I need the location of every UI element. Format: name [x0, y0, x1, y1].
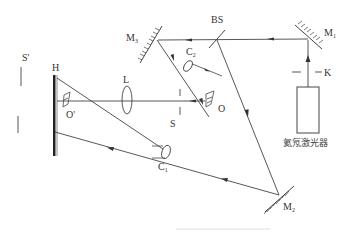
h-label: H — [52, 62, 59, 73]
object-beam-to-h — [57, 100, 205, 103]
beam-m2-to-h — [55, 132, 279, 195]
beam-expander-c2 — [182, 59, 195, 73]
o-prime-label: O' — [66, 109, 75, 120]
s-prime-label: S' — [22, 52, 30, 63]
m3-label: M3 — [126, 32, 138, 44]
m1-label: M1 — [324, 27, 336, 39]
object-o — [206, 91, 214, 107]
holography-setup-diagram: 氦氖激光器 K M1 BS — [0, 0, 349, 234]
hologram-plate-h — [53, 75, 57, 156]
o-label: O — [218, 103, 225, 114]
c1-label: C1 — [158, 161, 168, 173]
laser-label: 氦氖激光器 — [283, 137, 328, 148]
c2-label: C2 — [186, 46, 196, 58]
l-label: L — [123, 74, 129, 85]
beam-bs-to-m2 — [217, 40, 279, 195]
bs-label: BS — [211, 14, 223, 25]
laser-source — [297, 87, 319, 133]
virtual-image-o-prime — [63, 92, 70, 107]
lens-l — [122, 86, 132, 114]
aperture-image-s-prime — [18, 67, 21, 133]
mirror-m1 — [295, 21, 323, 49]
beam-expander-c1 — [152, 144, 172, 160]
beam-laser-to-m1 — [306, 40, 311, 87]
beam-m1-to-m3 — [158, 38, 308, 42]
k-label: K — [324, 67, 332, 78]
s-label: S — [170, 118, 176, 129]
mirror-m3 — [138, 26, 162, 63]
m2-label: M2 — [283, 201, 295, 213]
beam-splitter-bs — [209, 30, 225, 48]
